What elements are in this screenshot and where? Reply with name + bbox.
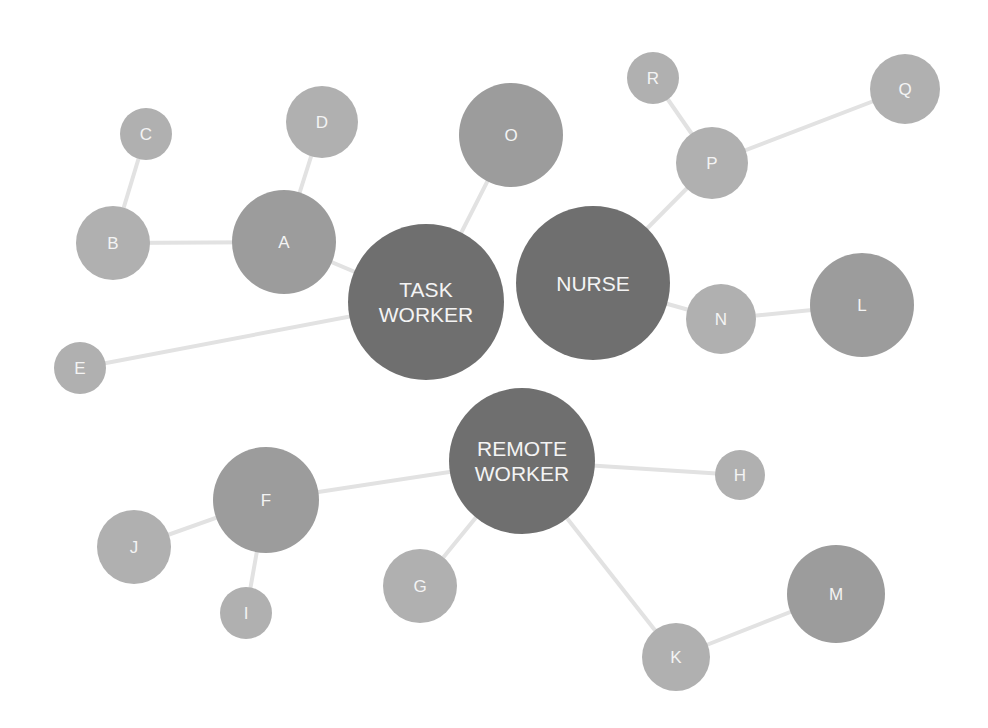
node-label: I xyxy=(244,604,249,623)
node-p: P xyxy=(676,127,748,199)
node-i: I xyxy=(220,587,272,639)
node-q: Q xyxy=(870,54,940,124)
node-label: E xyxy=(74,359,85,378)
node-label: C xyxy=(140,125,152,144)
node-label: F xyxy=(261,491,271,510)
node-label: K xyxy=(670,648,682,667)
node-label: REMOTE xyxy=(477,437,567,460)
node-label: P xyxy=(706,154,717,173)
node-label: O xyxy=(504,126,517,145)
node-label: NURSE xyxy=(556,272,630,295)
node-label: B xyxy=(107,234,118,253)
node-d: D xyxy=(286,86,358,158)
node-c: C xyxy=(120,108,172,160)
node-remote-worker: REMOTEWORKER xyxy=(449,388,595,534)
node-label: A xyxy=(278,233,290,252)
node-label: WORKER xyxy=(379,303,474,326)
node-l: L xyxy=(810,253,914,357)
node-j: J xyxy=(97,510,171,584)
node-m: M xyxy=(787,545,885,643)
node-f: F xyxy=(213,447,319,553)
node-label: M xyxy=(829,585,843,604)
node-label: WORKER xyxy=(475,462,570,485)
node-label: D xyxy=(316,113,328,132)
node-g: G xyxy=(383,549,457,623)
node-label: L xyxy=(857,296,866,315)
node-circle xyxy=(449,388,595,534)
nodes-layer: TASKWORKERNURSEREMOTEWORKERABCDEFGHIJKLM… xyxy=(54,52,940,691)
node-label: Q xyxy=(898,80,911,99)
node-circle xyxy=(348,224,504,380)
node-label: TASK xyxy=(399,278,452,301)
node-label: G xyxy=(413,577,426,596)
node-n: N xyxy=(686,284,756,354)
node-task-worker: TASKWORKER xyxy=(348,224,504,380)
node-label: N xyxy=(715,310,727,329)
node-nurse: NURSE xyxy=(516,206,670,360)
node-a: A xyxy=(232,190,336,294)
node-e: E xyxy=(54,342,106,394)
network-diagram: TASKWORKERNURSEREMOTEWORKERABCDEFGHIJKLM… xyxy=(0,0,988,728)
node-label: R xyxy=(647,69,659,88)
node-label: H xyxy=(734,466,746,485)
node-r: R xyxy=(627,52,679,104)
node-o: O xyxy=(459,83,563,187)
node-b: B xyxy=(76,206,150,280)
node-k: K xyxy=(642,623,710,691)
node-h: H xyxy=(715,450,765,500)
node-label: J xyxy=(130,538,139,557)
